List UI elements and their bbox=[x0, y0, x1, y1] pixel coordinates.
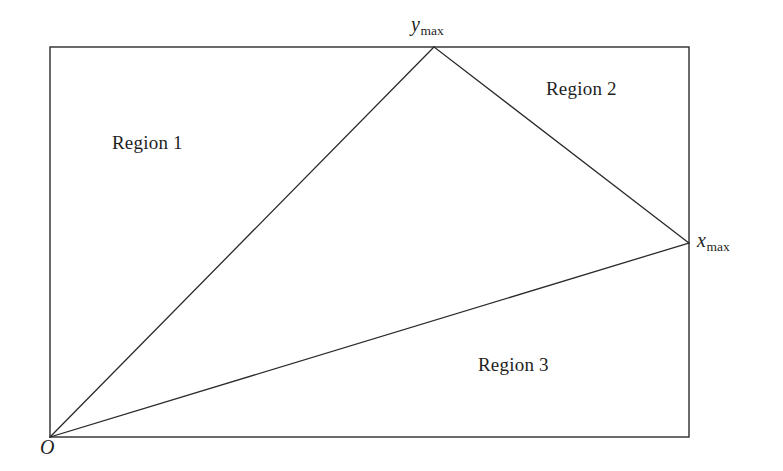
y-max-label: ymax bbox=[411, 14, 443, 34]
origin-label: O bbox=[40, 437, 54, 457]
x-max-subscript: max bbox=[706, 239, 729, 254]
y-max-subscript: max bbox=[420, 23, 443, 38]
y-max-variable: y bbox=[411, 13, 420, 35]
background-rect bbox=[0, 0, 783, 471]
region-3-label: Region 3 bbox=[478, 355, 549, 374]
x-max-variable: x bbox=[697, 229, 706, 251]
region-2-label: Region 2 bbox=[546, 79, 617, 98]
x-max-label: xmax bbox=[697, 230, 729, 250]
region-1-label: Region 1 bbox=[112, 133, 183, 152]
region-diagram-svg bbox=[0, 0, 783, 471]
diagram-canvas: Region 1 Region 2 Region 3 ymax xmax O bbox=[0, 0, 783, 471]
